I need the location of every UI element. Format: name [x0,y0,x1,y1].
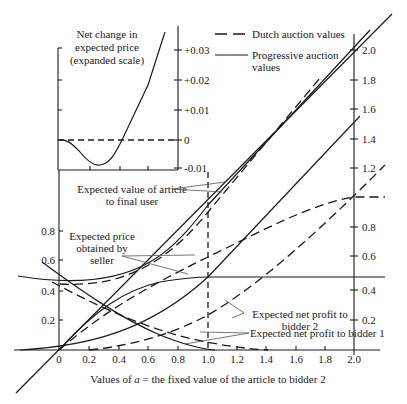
svg-text:0.4: 0.4 [112,353,126,365]
svg-text:0.6: 0.6 [141,353,155,365]
legend-label-progressive-1: Progressive auction [252,49,339,61]
inset-title-line1: Net change in [76,28,138,40]
annotation-bidder1: Expected net profit to bidder 1 [250,327,385,339]
svg-text:1.8: 1.8 [362,74,376,86]
svg-text:1.4: 1.4 [362,133,376,145]
annotation-seller-1: Expected price [69,230,135,242]
auction-chart: Net change in expected price (expanded s… [0,0,407,404]
svg-text:1.2: 1.2 [362,162,376,174]
svg-text:0.8: 0.8 [41,225,55,237]
svg-text:1.2: 1.2 [230,353,244,365]
svg-text:2.0: 2.0 [347,353,361,365]
inset-tick: +0.02 [184,74,209,86]
x-axis-label: Values of a = the fixed value of the art… [90,373,325,385]
svg-text:0.8: 0.8 [362,221,376,233]
svg-text:0.2: 0.2 [41,314,55,326]
inset-tick: -0.01 [184,162,207,174]
annotation-final-user-1: Expected value of article [77,183,187,195]
svg-text:0.6: 0.6 [41,254,55,266]
svg-text:0.4: 0.4 [41,285,55,297]
svg-text:0.6: 0.6 [362,250,376,262]
legend-label-dutch: Dutch auction values [252,28,345,40]
legend: Dutch auction values Progressive auction… [215,28,345,73]
svg-text:0: 0 [56,353,62,365]
annotation-seller-2: obtained by [76,242,128,254]
svg-text:1.8: 1.8 [318,353,332,365]
svg-text:0.2: 0.2 [82,353,96,365]
inset-title-line2: expected price [75,41,139,53]
svg-text:2.0: 2.0 [362,44,376,56]
annotations: Expected value of article to final user … [69,182,385,344]
svg-text:0.2: 0.2 [362,314,376,326]
svg-text:0.8: 0.8 [171,353,185,365]
annotation-bidder2-1: Expected net profit to [252,308,348,320]
svg-text:0.4: 0.4 [362,284,376,296]
annotation-seller-3: seller [90,254,114,266]
inset-chart: Net change in expected price (expanded s… [58,26,210,174]
legend-label-progressive-2: values [252,61,280,73]
inset-tick: +0.01 [184,104,209,116]
svg-text:1.6: 1.6 [362,103,376,115]
inset-tick: +0.03 [184,44,210,56]
final-user-value-progressive [18,30,370,281]
annotation-final-user-2: to final user [106,195,159,207]
bidder1-profit-progressive [42,262,215,350]
inset-title-line3: (expanded scale) [70,54,145,67]
svg-text:1.0: 1.0 [201,353,215,365]
inset-tick: 0 [184,134,190,146]
svg-text:1.4: 1.4 [259,353,273,365]
svg-text:1.6: 1.6 [289,353,303,365]
